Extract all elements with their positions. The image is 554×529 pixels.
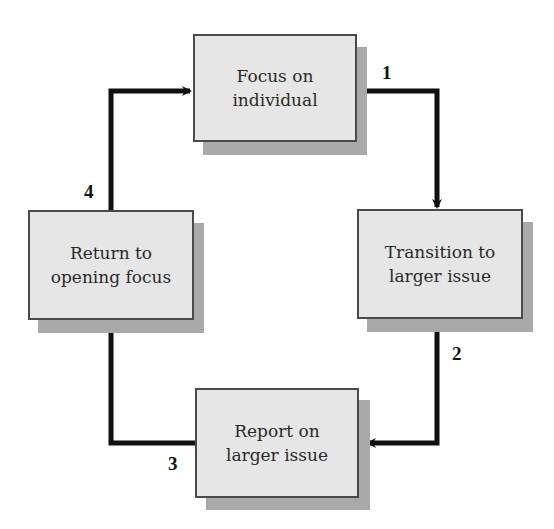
step-label-line: larger issue — [385, 264, 496, 288]
step-report-on-larger-issue: Report on larger issue — [195, 388, 359, 498]
step-label-line: Transition to — [385, 240, 496, 264]
step-transition-to-larger-issue: Transition to larger issue — [357, 209, 523, 319]
step-label-line: Focus on — [232, 64, 317, 88]
step-label-line: individual — [232, 88, 317, 112]
arrow-3 — [111, 325, 195, 443]
arrow-4 — [111, 91, 190, 210]
arrow-label-1: 1 — [382, 62, 392, 84]
step-focus-on-individual: Focus on individual — [193, 34, 357, 142]
step-label-line: opening focus — [51, 265, 172, 289]
arrow-label-2: 2 — [452, 343, 462, 365]
step-label-line: larger issue — [226, 443, 328, 467]
step-return-to-opening-focus: Return to opening focus — [28, 210, 194, 320]
arrow-label-4: 4 — [84, 181, 94, 203]
step-label-line: Report on — [226, 419, 328, 443]
step-label-line: Return to — [51, 241, 172, 265]
arrow-label-3: 3 — [168, 453, 178, 475]
arrow-2 — [368, 318, 437, 443]
arrow-1 — [357, 91, 437, 207]
